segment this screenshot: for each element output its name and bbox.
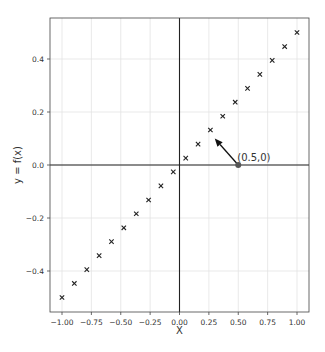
y-tick-label: −0.2	[26, 214, 44, 223]
y-tick-label: 0.0	[32, 161, 44, 170]
x-marker-point	[134, 212, 138, 216]
x-marker-point	[97, 253, 101, 257]
x-tick-label: −1.00	[51, 318, 74, 327]
x-marker-point	[282, 44, 286, 48]
x-marker-point	[171, 170, 175, 174]
y-axis-ticks: −0.4−0.20.00.20.4	[26, 55, 50, 276]
x-marker-point	[72, 281, 76, 285]
x-tick-label: −0.25	[139, 318, 162, 327]
x-marker-point	[258, 72, 262, 76]
x-tick-label: 1.00	[289, 318, 306, 327]
x-axis-label: X	[176, 325, 183, 336]
annotation-arrow-shaft	[220, 144, 238, 165]
scatter-chart: −1.00−0.75−0.50−0.250.000.250.500.751.00…	[0, 0, 325, 352]
x-tick-label: 0.75	[259, 318, 276, 327]
x-marker-point	[184, 156, 188, 160]
x-marker-point	[233, 100, 237, 104]
y-tick-label: 0.2	[32, 108, 44, 117]
y-axis-label: y = f(x)	[12, 146, 23, 184]
annotation-label: (0.5,0)	[237, 152, 270, 163]
x-tick-label: −0.50	[109, 318, 132, 327]
x-tick-label: 0.50	[230, 318, 247, 327]
x-marker-point	[196, 142, 200, 146]
annotation: (0.5,0)	[215, 139, 271, 169]
y-tick-label: 0.4	[32, 55, 44, 64]
x-marker-point	[122, 226, 126, 230]
y-tick-label: −0.4	[26, 267, 44, 276]
x-marker-point	[159, 184, 163, 188]
x-tick-label: −0.75	[80, 318, 103, 327]
x-marker-point	[221, 114, 225, 118]
x-marker-point	[245, 86, 249, 90]
x-marker-point	[109, 239, 113, 243]
x-tick-label: 0.25	[201, 318, 218, 327]
